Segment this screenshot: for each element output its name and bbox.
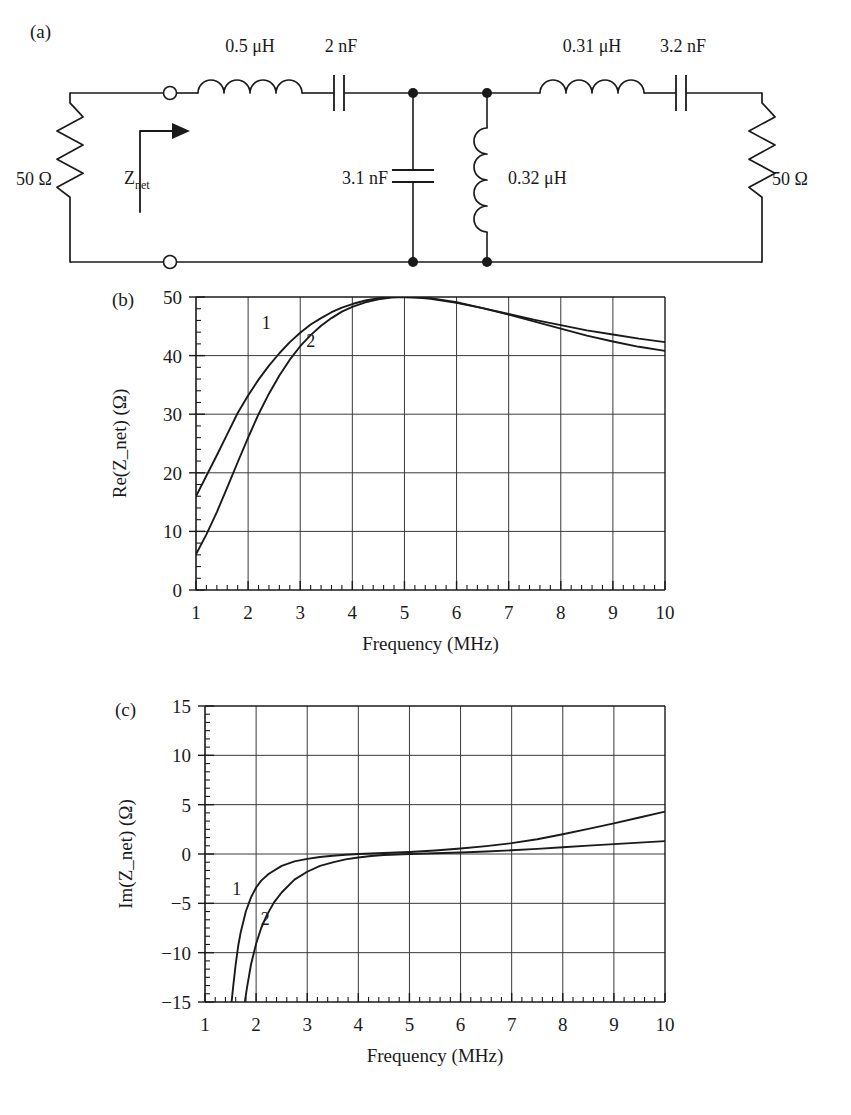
inductor-icon xyxy=(474,128,487,232)
x-tick-label: 5 xyxy=(400,602,410,623)
plot-frame xyxy=(196,297,665,590)
inductor-icon xyxy=(540,80,644,93)
data-curve-2 xyxy=(245,841,665,1002)
load-resistor-label: 50 Ω xyxy=(772,169,808,189)
series-capacitor-2-label: 3.2 nF xyxy=(660,36,706,56)
data-curve-1 xyxy=(232,812,665,1002)
input-impedance-marker xyxy=(140,123,190,212)
x-tick-label: 5 xyxy=(405,1014,415,1035)
arrowhead-icon xyxy=(172,123,190,139)
figure-container: (a)50 Ω50 ΩZnet0.5 μH2 nF3.1 nF0.32 μH0.… xyxy=(0,0,851,1115)
input-impedance-subscript: net xyxy=(135,178,150,192)
source-resistor xyxy=(57,93,83,262)
series-inductor-1-label: 0.5 μH xyxy=(225,36,275,56)
current-direction-arrow-icon xyxy=(140,131,178,212)
chart-panel-b: (b)1234567891001020304050Frequency (MHz)… xyxy=(109,287,675,655)
tick-labels: 12345678910−15−10−5051015 xyxy=(161,696,674,1035)
x-tick-label: 9 xyxy=(608,602,618,623)
curve-label: 2 xyxy=(306,331,315,351)
x-tick-label: 8 xyxy=(558,1014,568,1035)
figure-canvas: (a)50 Ω50 ΩZnet0.5 μH2 nF3.1 nF0.32 μH0.… xyxy=(0,0,851,1115)
series-inductor-2-label: 0.31 μH xyxy=(563,36,622,56)
shunt-inductor-label: 0.32 μH xyxy=(508,168,567,188)
x-tick-label: 1 xyxy=(191,602,201,623)
x-tick-label: 4 xyxy=(354,1014,364,1035)
y-axis-title: Im(Z_net) (Ω) xyxy=(115,799,137,909)
x-tick-label: 1 xyxy=(200,1014,210,1035)
shunt-capacitor-label: 3.1 nF xyxy=(342,168,388,188)
input-impedance-label: Znet xyxy=(124,168,150,192)
shunt-inductor xyxy=(474,93,487,262)
source-resistor-label: 50 Ω xyxy=(16,169,52,189)
y-tick-label: 0 xyxy=(182,844,192,865)
x-tick-label: 6 xyxy=(452,602,462,623)
inductor-icon xyxy=(198,80,302,93)
curve-annotations: 12 xyxy=(262,313,315,352)
x-tick-label: 9 xyxy=(609,1014,619,1035)
curve-label: 2 xyxy=(261,909,270,929)
data-curve-2 xyxy=(196,297,665,554)
curve-label: 1 xyxy=(232,879,241,899)
series-capacitor-1-label: 2 nF xyxy=(325,36,358,56)
y-tick-label: 5 xyxy=(182,795,192,816)
x-tick-label: 10 xyxy=(656,602,675,623)
input-impedance-symbol: Z xyxy=(124,168,135,188)
x-tick-label: 8 xyxy=(556,602,566,623)
panel-tag: (c) xyxy=(115,699,136,721)
x-axis-title: Frequency (MHz) xyxy=(362,633,499,655)
ticks xyxy=(189,297,665,590)
panel-a-tag: (a) xyxy=(30,21,51,43)
y-tick-label: −5 xyxy=(171,893,191,914)
x-tick-label: 4 xyxy=(348,602,358,623)
y-tick-label: 20 xyxy=(163,463,182,484)
chart-panel-c: (c)12345678910−15−10−5051015Frequency (M… xyxy=(115,696,675,1067)
grid xyxy=(196,297,665,590)
y-tick-label: 30 xyxy=(163,404,182,425)
x-tick-label: 3 xyxy=(295,602,305,623)
circuit-labels: 50 Ω50 ΩZnet0.5 μH2 nF3.1 nF0.32 μH0.31 … xyxy=(16,36,808,192)
y-tick-label: 10 xyxy=(163,521,182,542)
curve-annotations: 12 xyxy=(232,879,270,929)
y-tick-label: 15 xyxy=(172,696,191,717)
y-axis-title: Re(Z_net) (Ω) xyxy=(109,389,131,499)
curves xyxy=(232,812,665,1002)
x-tick-label: 3 xyxy=(302,1014,312,1035)
x-tick-label: 7 xyxy=(504,602,514,623)
terminals xyxy=(164,87,177,269)
y-tick-label: 50 xyxy=(163,287,182,308)
shunt-capacitor xyxy=(392,93,434,262)
x-tick-label: 10 xyxy=(656,1014,675,1035)
y-tick-label: 0 xyxy=(173,580,183,601)
curve-label: 1 xyxy=(262,313,271,333)
x-tick-label: 7 xyxy=(507,1014,517,1035)
x-tick-label: 2 xyxy=(251,1014,261,1035)
curves xyxy=(196,297,665,554)
y-tick-label: −15 xyxy=(161,992,191,1013)
y-tick-label: −10 xyxy=(161,943,191,964)
x-tick-label: 2 xyxy=(243,602,253,623)
terminal-node-icon xyxy=(164,256,177,269)
panel-tag: (b) xyxy=(112,289,134,311)
resistor-icon xyxy=(57,93,83,262)
x-tick-label: 6 xyxy=(456,1014,466,1035)
y-tick-label: 10 xyxy=(172,745,191,766)
y-tick-label: 40 xyxy=(163,346,182,367)
circuit-schematic: (a)50 Ω50 ΩZnet0.5 μH2 nF3.1 nF0.32 μH0.… xyxy=(16,21,808,269)
terminal-node-icon xyxy=(164,87,177,100)
x-axis-title: Frequency (MHz) xyxy=(367,1045,504,1067)
